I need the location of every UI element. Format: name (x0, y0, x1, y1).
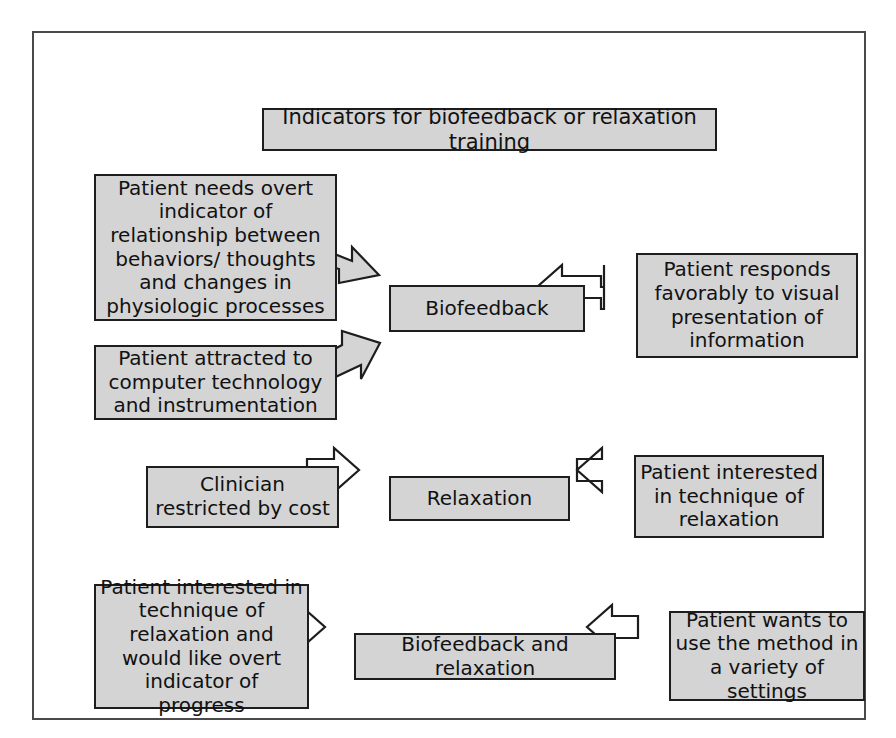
arrow-interested-to-relaxation (577, 448, 602, 492)
node-clinician-label: Clinician restricted by cost (148, 473, 337, 520)
diagram-frame: Indicators for biofeedback or relaxation… (32, 31, 866, 720)
node-title-label: Indicators for biofeedback or relaxation… (264, 105, 715, 155)
diagram-page: Indicators for biofeedback or relaxation… (0, 0, 896, 738)
node-patient-attracted-to-computer-technology: Patient attracted to computer technology… (94, 345, 337, 420)
node-responds-label: Patient responds favorably to visual pre… (638, 258, 856, 352)
node-interested-overt-label: Patient interested in technique of relax… (96, 576, 307, 718)
node-variety-label: Patient wants to use the method in a var… (671, 609, 863, 703)
node-patient-responds-favorably: Patient responds favorably to visual pre… (636, 253, 858, 358)
node-biofeedback: Biofeedback (389, 285, 585, 332)
node-biofeedback-label: Biofeedback (391, 297, 583, 321)
node-clinician-restricted-by-cost: Clinician restricted by cost (146, 466, 339, 528)
node-need-overt-label: Patient needs overt indicator of relatio… (96, 177, 335, 319)
node-patient-wants-variety-of-settings: Patient wants to use the method in a var… (669, 611, 865, 701)
node-patient-needs-overt-indicator: Patient needs overt indicator of relatio… (94, 174, 337, 321)
node-interested-label: Patient interested in technique of relax… (636, 461, 822, 532)
node-relaxation: Relaxation (389, 476, 570, 521)
node-relaxation-label: Relaxation (391, 487, 568, 511)
node-title-indicators: Indicators for biofeedback or relaxation… (262, 108, 717, 151)
node-biofeedback-and-relaxation: Biofeedback and relaxation (354, 633, 616, 680)
node-both-label: Biofeedback and relaxation (356, 633, 614, 680)
node-patient-interested-and-overt-indicator: Patient interested in technique of relax… (94, 584, 309, 709)
node-attracted-label: Patient attracted to computer technology… (96, 347, 335, 418)
node-patient-interested-in-technique: Patient interested in technique of relax… (634, 455, 824, 538)
